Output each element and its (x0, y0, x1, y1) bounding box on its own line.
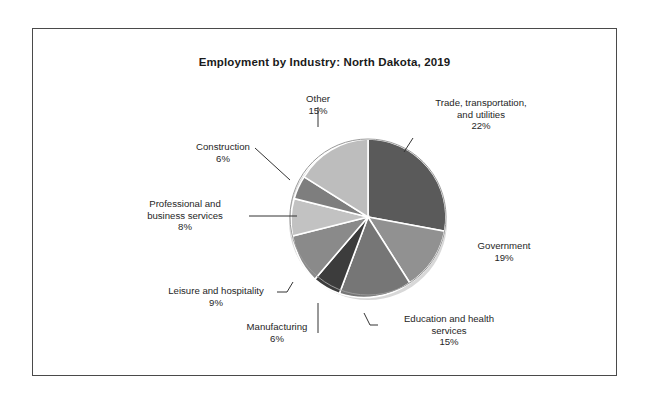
slice-label-other: Other 15% (286, 93, 350, 116)
slice-label-line1: Education and health (404, 313, 494, 324)
pie-slice-trade-transportation-and-utilities[interactable] (368, 139, 446, 231)
slice-value: 6% (186, 153, 260, 165)
slice-label-line2: and utilities (457, 109, 505, 120)
slice-label-education-and-health-services: Education and health services 15% (381, 313, 517, 348)
chart-figure: Employment by Industry: North Dakota, 20… (0, 0, 649, 400)
pie-chart-graphic (0, 0, 649, 400)
slice-label-line2: services (431, 325, 466, 336)
slice-label-line1: Trade, transportation, (435, 97, 526, 108)
slice-value: 9% (154, 297, 278, 309)
leader-line-construction (255, 148, 290, 180)
slice-label-line1: Other (306, 93, 330, 104)
slice-label-line1: Leisure and hospitality (168, 285, 263, 296)
slice-value: 19% (444, 252, 564, 264)
slice-label-manufacturing: Manufacturing 6% (234, 321, 320, 344)
slice-value: 8% (122, 221, 248, 233)
slice-label-professional-and-business-services: Professional and business services 8% (122, 198, 248, 233)
leader-line-education-and-health-services (364, 313, 378, 325)
slice-value: 22% (406, 120, 556, 132)
slice-label-trade-transportation-and-utilities: Trade, transportation, and utilities 22% (406, 97, 556, 132)
slice-label-line1: Manufacturing (247, 321, 308, 332)
slice-label-leisure-and-hospitality: Leisure and hospitality 9% (154, 285, 278, 308)
slice-value: 6% (234, 333, 320, 345)
slice-value: 15% (381, 336, 517, 348)
slice-label-government: Government 19% (444, 240, 564, 263)
leader-line-leisure-and-hospitality (277, 282, 293, 292)
slice-label-line2: business services (147, 210, 223, 221)
slice-value: 15% (286, 105, 350, 117)
slice-label-construction: Construction 6% (186, 141, 260, 164)
slice-label-line1: Construction (196, 141, 250, 152)
slice-label-line1: Government (478, 240, 531, 251)
slice-label-line1: Professional and (149, 198, 220, 209)
